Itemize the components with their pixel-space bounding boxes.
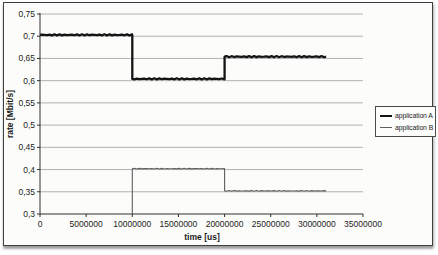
y-tick-label: 0,7: [23, 31, 35, 41]
x-tick-label: 30000000: [298, 219, 336, 229]
series-line-application-a: [40, 34, 326, 79]
y-tick-label: 0,75: [18, 9, 35, 19]
y-tick-label: 0,5: [23, 120, 35, 130]
y-axis-title: rate [Mbit/s]: [5, 90, 15, 138]
scanned-chart-figure: 0,30,350,40,450,50,550,60,650,70,7505000…: [0, 0, 438, 255]
chart-canvas: 0,30,350,40,450,50,550,60,650,70,7505000…: [0, 0, 438, 255]
y-tick-label: 0,65: [18, 53, 35, 63]
y-tick-label: 0,6: [23, 76, 35, 86]
legend-entry-label: application B: [395, 124, 433, 131]
x-axis-title: time [us]: [184, 232, 219, 242]
y-tick-label: 0,4: [23, 165, 35, 175]
legend-entry-label: application A: [395, 112, 433, 119]
x-tick-label: 0: [38, 219, 43, 229]
x-tick-label: 35000000: [344, 219, 382, 229]
legend-entry-application-a: application A: [380, 112, 433, 119]
legend-box: application A application B: [375, 106, 436, 137]
x-tick-label: 5000000: [70, 219, 103, 229]
x-tick-label: 20000000: [206, 219, 244, 229]
x-tick-label: 10000000: [113, 219, 151, 229]
y-tick-label: 0,35: [18, 187, 35, 197]
series-b-line-sample: [380, 127, 392, 128]
x-tick-label: 25000000: [252, 219, 290, 229]
series-a-line-sample: [380, 115, 392, 117]
legend-entry-application-b: application B: [380, 124, 433, 131]
series-line-application-b: [132, 168, 326, 214]
y-tick-label: 0,45: [18, 142, 35, 152]
x-tick-label: 15000000: [160, 219, 198, 229]
y-tick-label: 0,55: [18, 98, 35, 108]
y-tick-label: 0,3: [23, 209, 35, 219]
